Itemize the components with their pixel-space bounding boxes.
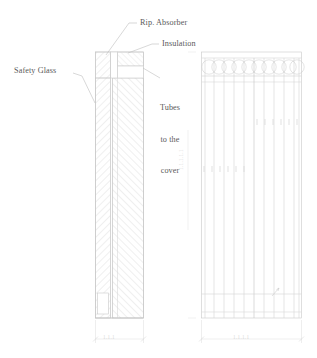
dimension-text-elevation-width: 1.1.1.1 (233, 334, 249, 340)
section-bottom-notch (98, 293, 109, 314)
tube-lines (205, 58, 299, 318)
safety-glass-leader (73, 73, 95, 103)
section-view (96, 52, 144, 318)
section-band-left (96, 78, 111, 318)
label-tubes-line-1: Tubes (150, 103, 190, 114)
tube-end-circle (290, 60, 304, 74)
dimension-text-section-width: 1.1.1 (103, 334, 115, 340)
elevation-dimension-horizontal (199, 320, 304, 343)
tubes-leader (143, 68, 160, 78)
label-safety-glass: Safety Glass (14, 66, 56, 77)
insulation-leader (128, 44, 159, 53)
tube-end-circles (202, 60, 304, 74)
section-top-left-block (96, 52, 111, 78)
label-insulation: Insulation (162, 39, 196, 50)
elevation-view (202, 52, 305, 318)
label-tubes-line-2: to the (150, 135, 190, 146)
elevation-detail-leader (272, 288, 279, 296)
section-top-void (111, 52, 118, 78)
drawing-canvas: Safety Glass Rip. Absorber Insulation Tu… (0, 0, 317, 358)
label-tubes-line-3: cover (150, 166, 190, 177)
elevation-outline (202, 52, 302, 318)
dimension-text-elevation-height: 1.1.1.1.1 (178, 149, 184, 170)
section-band-right (113, 78, 144, 318)
label-tubes-to-cover: Tubes to the cover (150, 82, 190, 198)
section-top-right-block (118, 52, 144, 66)
label-rip-absorber: Rip. Absorber (140, 18, 187, 29)
section-tube-channel (118, 66, 144, 78)
rip-absorber-leader (106, 23, 137, 55)
section-dimension (93, 320, 146, 343)
tick-row-upper (257, 119, 297, 125)
